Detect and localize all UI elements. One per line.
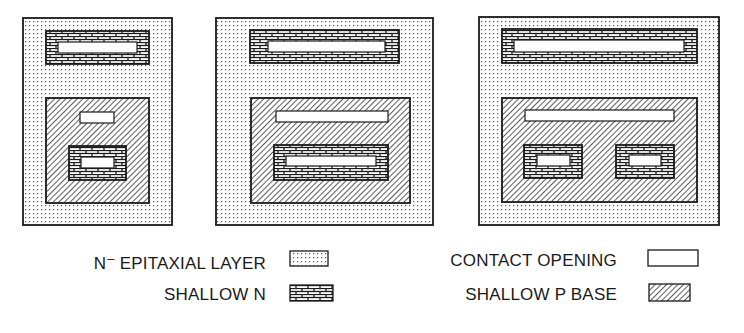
contact-opening (268, 41, 385, 52)
contact-opening (514, 40, 684, 52)
legend-label-contact-opening: CONTACT OPENING (450, 252, 617, 269)
panel-1 (23, 18, 172, 225)
legend-swatch-shallow_n (290, 285, 333, 301)
p-base-contact-opening (525, 110, 674, 121)
legend-swatch-contact (648, 250, 698, 266)
p-base-contact-opening (80, 112, 114, 123)
panels (23, 17, 719, 225)
label-n: N (94, 254, 106, 273)
legend-label-epitaxial: N– EPITAXIAL LAYER (94, 252, 266, 272)
emitter-contact-opening (629, 155, 661, 166)
emitter-contact-opening (537, 155, 570, 166)
emitter-contact-opening (286, 156, 376, 166)
p-base-contact-opening (276, 111, 388, 122)
legend-label-shallow-n: SHALLOW N (164, 286, 266, 303)
legend-label-shallow-p-base: SHALLOW P BASE (465, 286, 617, 303)
contact-opening (58, 42, 137, 53)
label-minus-superscript: – (107, 251, 114, 266)
label-epitaxial-text: EPITAXIAL LAYER (115, 254, 266, 273)
layout-diagram (0, 0, 744, 333)
emitter-contact-opening (81, 157, 114, 168)
legend-swatch-epitaxial (290, 251, 328, 266)
panel-2 (216, 18, 433, 225)
legend-swatch-p_base (649, 284, 690, 301)
panel-3 (479, 17, 719, 225)
